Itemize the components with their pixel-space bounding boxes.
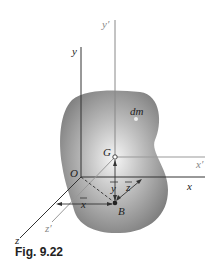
figure-caption: Fig. 9.22 <box>15 245 63 259</box>
x-bar-arrowhead-left <box>56 202 62 206</box>
figure-canvas: y y′ x x′ z z′ O G B dm x y z <box>0 0 216 263</box>
origin-label: O <box>70 167 78 179</box>
z-prime-axis-label: z′ <box>44 222 52 234</box>
y-bar-label: y <box>110 182 116 194</box>
mass-element-label: dm <box>130 105 144 117</box>
point-b-label: B <box>118 205 125 217</box>
x-bar-label: x <box>80 198 86 210</box>
rigid-body <box>60 90 168 233</box>
x-prime-axis-label: x′ <box>195 158 204 170</box>
mass-element-point <box>134 117 138 121</box>
point-b <box>113 201 118 206</box>
z-bar-label: z <box>125 181 131 193</box>
centroid-label: G <box>103 146 111 158</box>
y-axis-label: y <box>71 45 77 57</box>
y-prime-axis-label: y′ <box>101 18 110 30</box>
centroid-point <box>113 155 117 159</box>
x-axis-label: x <box>186 180 192 192</box>
